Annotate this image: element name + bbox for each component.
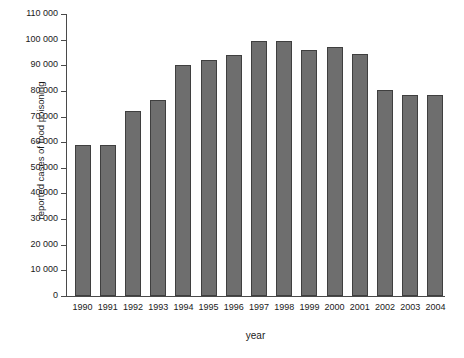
- x-axis-tick-label: 1998: [270, 302, 298, 312]
- bar: [100, 145, 116, 296]
- x-axis-line: [66, 296, 445, 297]
- y-axis-tick-label: 20 000: [0, 240, 58, 249]
- x-axis-tick-label: 1992: [119, 302, 147, 312]
- x-axis-tick-label: 2001: [346, 302, 374, 312]
- y-axis-tick-label: 40 000: [0, 188, 58, 197]
- y-axis-tick-label: 60 000: [0, 137, 58, 146]
- x-axis-tick-label: 1996: [220, 302, 248, 312]
- x-axis-tick-label: 1997: [245, 302, 273, 312]
- x-axis-tick-label: 2004: [421, 302, 449, 312]
- bar: [352, 54, 368, 296]
- bar: [75, 145, 91, 296]
- y-axis-tick-label: 10 000: [0, 265, 58, 274]
- y-axis-tick-label: 90 000: [0, 60, 58, 69]
- x-axis-tick-label: 1995: [195, 302, 223, 312]
- y-axis-tick-label: 70 000: [0, 112, 58, 121]
- y-axis-tick-label: 30 000: [0, 214, 58, 223]
- bar: [427, 95, 443, 296]
- bar: [150, 100, 166, 296]
- x-axis-tick-label: 1994: [169, 302, 197, 312]
- y-axis-tick-label: 80 000: [0, 86, 58, 95]
- bar: [377, 90, 393, 296]
- bar: [226, 55, 242, 296]
- y-axis-tick-label: 100 000: [0, 35, 58, 44]
- x-axis-tick-label: 2003: [396, 302, 424, 312]
- x-axis-tick-label: 2002: [371, 302, 399, 312]
- bar: [276, 41, 292, 296]
- bar: [175, 65, 191, 296]
- bar: [125, 111, 141, 296]
- bar: [327, 47, 343, 296]
- x-axis-tick-label: 1990: [69, 302, 97, 312]
- bar: [201, 60, 217, 296]
- x-axis-title: year: [66, 330, 445, 341]
- bar: [251, 41, 267, 296]
- y-axis-tick: [61, 296, 66, 297]
- x-axis-tick-label: 1999: [295, 302, 323, 312]
- plot-area: [66, 14, 444, 296]
- x-axis-tick-label: 1993: [144, 302, 172, 312]
- x-axis-tick-label: 2000: [321, 302, 349, 312]
- y-axis-tick-label: 0: [0, 291, 58, 300]
- bar-chart: reported cases of food poisoning 010 000…: [0, 0, 464, 358]
- y-axis-tick-label: 50 000: [0, 163, 58, 172]
- bar: [402, 95, 418, 296]
- bar: [301, 50, 317, 296]
- y-axis-tick-label: 110 000: [0, 9, 58, 18]
- x-axis-tick-label: 1991: [94, 302, 122, 312]
